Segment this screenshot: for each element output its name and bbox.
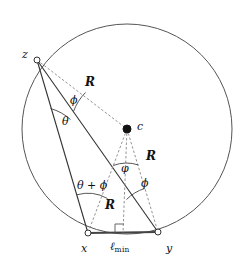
edge-z-x	[37, 60, 88, 233]
chord-length-subscript: min	[115, 245, 130, 254]
vertex-marker-y	[155, 229, 161, 235]
radius-label-cx: R	[105, 199, 115, 211]
vertex-marker-x	[85, 230, 91, 236]
angle-phi-at-y: ϕ	[141, 178, 149, 189]
chord-length-label: ℓmin	[110, 241, 130, 253]
radius-label-cy: R	[146, 150, 156, 162]
point-label-y: y	[166, 243, 172, 254]
angle-theta-at-z: θ	[62, 116, 69, 127]
angle-phi-at-z: ϕ	[70, 95, 78, 106]
figure-canvas	[0, 0, 240, 270]
radius-z-c	[37, 60, 127, 129]
point-label-x: x	[81, 243, 87, 254]
geometry-figure: z c x y R R R ϕ θ φ ϕ θ + ϕ ℓmin	[0, 0, 240, 270]
vertex-marker-c	[123, 125, 131, 133]
radius-label-zc: R	[85, 76, 95, 88]
point-label-z: z	[22, 49, 28, 60]
vertex-marker-z	[34, 57, 40, 63]
perpendicular-c-foot	[123, 129, 127, 233]
angle-varphi-at-c: φ	[121, 163, 129, 174]
angle-theta-plus-phi-at-x: θ + ϕ	[77, 180, 107, 191]
point-label-c: c	[137, 121, 143, 132]
